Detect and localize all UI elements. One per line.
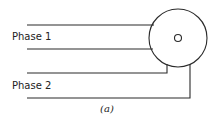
motor-shaft: [175, 35, 182, 42]
phase-2-wire-bottom: [27, 64, 190, 98]
phase-2-wire-top: [27, 64, 167, 73]
motor-housing: [149, 9, 207, 67]
two-phase-motor-diagram: Phase 1 Phase 2 (a): [0, 0, 218, 118]
figure-caption: (a): [100, 103, 114, 114]
phase-1-label: Phase 1: [12, 31, 51, 42]
phase-2-label: Phase 2: [12, 80, 51, 91]
